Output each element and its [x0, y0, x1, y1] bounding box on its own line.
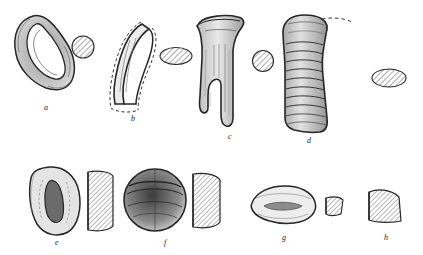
artifact-drawing-f: [124, 169, 186, 231]
artifact-drawing-h: [369, 190, 401, 222]
figure-label-f: f: [164, 239, 166, 247]
artifact-drawing-e: [30, 167, 80, 235]
figure-label-e: e: [55, 239, 59, 247]
section-profile-f: [193, 173, 220, 227]
figure-label-a: a: [44, 104, 48, 112]
artifact-drawing-a: [15, 16, 75, 90]
section-profile-c: [253, 51, 274, 72]
figure-drawing: [0, 0, 423, 255]
artifact-plate-figure: a b c d e f g h: [0, 0, 423, 255]
figure-label-b: b: [131, 115, 135, 123]
section-profile-g: [326, 197, 343, 216]
figure-label-d: d: [307, 137, 311, 145]
artifact-drawing-d: [283, 15, 352, 132]
artifact-drawing-g: [251, 186, 315, 223]
figure-label-c: c: [228, 133, 232, 141]
figure-label-h: h: [384, 234, 388, 242]
artifact-drawing-c: [197, 16, 244, 127]
section-profile-b: [160, 48, 192, 65]
figure-label-g: g: [282, 234, 286, 242]
section-profile-e: [88, 171, 113, 231]
artifact-drawing-b: [110, 22, 156, 112]
section-profile-a: [72, 36, 94, 58]
section-profile-d: [372, 69, 406, 87]
